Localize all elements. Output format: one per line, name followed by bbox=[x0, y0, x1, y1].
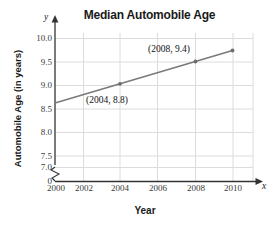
y-tick-9-5: 9.5 bbox=[26, 58, 52, 67]
y-tick-7-0: 7.0 bbox=[26, 163, 52, 172]
x-tick-2010: 2010 bbox=[213, 184, 253, 193]
y-tick-7-5: 7.5 bbox=[26, 152, 52, 161]
x-tick-2006: 2006 bbox=[138, 184, 178, 193]
data-point-2004 bbox=[118, 82, 122, 86]
x-tick-2004: 2004 bbox=[100, 184, 140, 193]
vertical-gridlines bbox=[84, 33, 254, 182]
horizontal-gridlines bbox=[55, 39, 253, 168]
data-line-median-automobile-age bbox=[55, 51, 233, 104]
annotation-2004: (2004, 8.8) bbox=[86, 95, 128, 105]
x-tick-2008: 2008 bbox=[176, 184, 216, 193]
chart-figure: Median Automobile Age Automobile Age (in… bbox=[0, 0, 279, 235]
y-tick-8-5: 8.5 bbox=[26, 105, 52, 114]
x-tick-2002: 2002 bbox=[64, 184, 104, 193]
y-axis-break-icon bbox=[51, 167, 59, 181]
y-tick-10-0: 10.0 bbox=[26, 34, 52, 43]
annotation-2008: (2008, 9.4) bbox=[148, 44, 190, 54]
x-axis-variable-letter: x bbox=[262, 181, 266, 191]
y-axis-variable-letter: y bbox=[44, 12, 48, 22]
y-tick-labels: 10.0 9.5 9.0 8.5 8.0 7.5 7.0 0 bbox=[25, 0, 52, 235]
y-tick-8-0: 8.0 bbox=[26, 128, 52, 137]
y-tick-9-0: 9.0 bbox=[26, 81, 52, 90]
data-point-2008 bbox=[194, 60, 198, 64]
data-point-2010 bbox=[231, 49, 235, 53]
y-axis-arrow bbox=[52, 15, 59, 23]
